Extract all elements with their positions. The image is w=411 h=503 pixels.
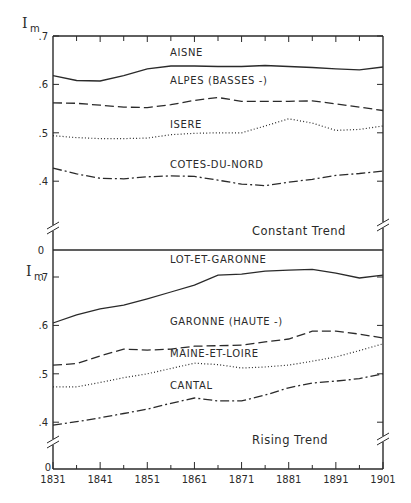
x-tick-label: 1901	[370, 474, 395, 485]
series-label: CANTAL	[170, 380, 213, 391]
rising-trend-panel: Im.7.6.5.4LOT-ET-GARONNEGARONNE (HAUTE -…	[26, 254, 383, 447]
series-label: ISERE	[170, 119, 202, 130]
x-axis: 18311841185118611871188118911901	[40, 462, 395, 485]
x-tick-label: 1831	[40, 474, 65, 485]
series-label: ALPES (BASSES -)	[170, 75, 268, 86]
y-axis-label: I	[26, 263, 32, 279]
series-label: GARONNE (HAUTE -)	[170, 316, 283, 327]
series-label: LOT-ET-GARONNE	[170, 254, 266, 265]
y-tick-label: .4	[38, 417, 48, 428]
y-tick-label: .4	[38, 176, 48, 187]
constant-trend-panel: Im.7.6.5.4AISNEALPES (BASSES -)ISERECOTE…	[22, 15, 383, 238]
x-tick-label: 1891	[323, 474, 348, 485]
series-label: MAINE-ET-LOIRE	[170, 348, 259, 359]
y-tick-zero: 0	[38, 245, 44, 256]
series-label: COTES-DU-NORD	[170, 159, 264, 170]
series-line-cantal	[53, 374, 383, 425]
y-tick-label: .7	[38, 31, 48, 42]
panel-title: Rising Trend	[252, 433, 328, 447]
x-tick-label: 1861	[182, 474, 207, 485]
y-tick-label: .7	[38, 272, 48, 283]
x-tick-label: 1841	[87, 474, 112, 485]
series-line-isere	[53, 119, 383, 139]
series-line-lot-et-garonne	[53, 269, 383, 323]
series-line-alpes-basses	[53, 98, 383, 111]
series-line-cotes-du-nord	[53, 168, 383, 186]
series-label: AISNE	[170, 47, 203, 58]
y-tick-label: .6	[38, 79, 48, 90]
y-tick-label: .5	[38, 128, 48, 139]
y-tick-label: .5	[38, 369, 48, 380]
panel-title: Constant Trend	[252, 224, 346, 238]
x-tick-label: 1871	[229, 474, 254, 485]
chart-figure: 00 Im.7.6.5.4AISNEALPES (BASSES -)ISEREC…	[0, 0, 411, 503]
y-axis-label: I	[22, 15, 28, 31]
y-tick-label: .6	[38, 320, 48, 331]
x-tick-label: 1851	[135, 474, 160, 485]
y-tick-zero: 0	[45, 462, 51, 473]
x-tick-label: 1881	[276, 474, 301, 485]
